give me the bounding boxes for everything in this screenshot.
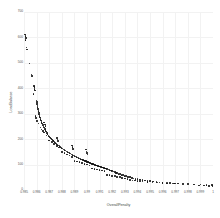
x-tick-label: 0.99 — [84, 191, 90, 194]
data-point — [101, 170, 103, 172]
data-point — [109, 174, 111, 176]
data-point — [182, 183, 184, 185]
gridline-horizontal — [24, 88, 213, 89]
data-point — [137, 180, 139, 182]
data-point — [193, 184, 195, 186]
data-point — [81, 162, 83, 164]
x-tick-label: 0.987 — [45, 191, 53, 194]
data-point — [85, 149, 87, 151]
y-axis-title-wrap: LoadBalance — [2, 12, 12, 190]
data-point — [198, 185, 200, 187]
data-point — [132, 180, 134, 182]
gridline-vertical — [188, 12, 189, 190]
data-point — [144, 180, 146, 182]
y-axis-title: LoadBalance — [9, 57, 13, 147]
data-point — [212, 185, 213, 187]
x-tick-label: 0.991 — [96, 191, 104, 194]
data-point — [76, 161, 78, 163]
x-tick-label: 0.992 — [108, 191, 116, 194]
data-point — [106, 174, 108, 176]
data-point — [66, 154, 68, 156]
data-point — [187, 183, 189, 185]
data-point — [36, 120, 38, 122]
x-tick-label: 0.996 — [159, 191, 167, 194]
gridline-vertical — [137, 12, 138, 190]
data-point — [45, 125, 47, 127]
data-point — [169, 182, 171, 184]
data-point — [71, 156, 73, 158]
data-point — [114, 175, 116, 177]
gridline-vertical — [163, 12, 164, 190]
data-point — [167, 182, 169, 184]
gridline-vertical — [175, 12, 176, 190]
data-point — [111, 175, 113, 177]
data-point — [124, 178, 126, 180]
gridline-vertical — [112, 12, 113, 190]
gridline-vertical — [100, 12, 101, 190]
data-point — [35, 117, 37, 119]
data-point — [203, 185, 205, 187]
data-point — [134, 180, 136, 182]
data-point — [147, 181, 149, 183]
data-point — [74, 160, 76, 162]
data-point — [139, 180, 141, 182]
x-tick-label: 0.997 — [171, 191, 179, 194]
gridline-vertical — [200, 12, 201, 190]
data-point — [159, 182, 161, 184]
data-point — [58, 147, 60, 149]
gridline-horizontal — [24, 165, 213, 166]
data-point — [96, 169, 98, 171]
plot-area — [24, 12, 213, 190]
data-point — [43, 132, 45, 134]
x-tick-label: 1 — [212, 191, 214, 194]
gridline-vertical — [125, 12, 126, 190]
data-point — [61, 151, 63, 153]
data-point — [69, 155, 71, 157]
data-point — [119, 176, 121, 178]
data-point — [31, 75, 33, 77]
x-tick-label: 0.989 — [71, 191, 79, 194]
data-point — [116, 176, 118, 178]
data-point — [208, 185, 210, 187]
data-point — [129, 179, 131, 181]
data-point — [25, 39, 27, 41]
gridline-vertical — [49, 12, 50, 190]
data-point — [91, 168, 93, 170]
gridline-horizontal — [24, 37, 213, 38]
gridline-vertical — [74, 12, 75, 190]
data-point — [56, 145, 58, 147]
data-point — [53, 143, 55, 145]
gridline-horizontal — [24, 63, 213, 64]
x-tick-label: 0.998 — [184, 191, 192, 194]
data-point — [94, 168, 96, 170]
data-point — [34, 90, 36, 92]
data-point — [72, 148, 74, 150]
data-point — [127, 178, 129, 180]
x-tick-label: 0.985 — [20, 191, 28, 194]
x-tick-label: 0.993 — [121, 191, 129, 194]
x-tick-label: 0.999 — [197, 191, 205, 194]
data-point — [206, 184, 208, 186]
data-point — [38, 123, 40, 125]
data-point — [51, 141, 53, 143]
data-point — [79, 161, 81, 163]
x-axis-title: OverallPenalty — [24, 203, 213, 207]
gridline-horizontal — [24, 114, 213, 115]
data-point — [26, 49, 28, 51]
data-point — [33, 93, 35, 95]
gridline-vertical — [62, 12, 63, 190]
gridline-vertical — [150, 12, 151, 190]
data-point — [64, 152, 66, 154]
data-point — [142, 181, 144, 183]
data-point — [121, 177, 123, 179]
data-point — [57, 140, 59, 142]
x-tick-label: 0.988 — [58, 191, 66, 194]
x-tick-label: 0.994 — [134, 191, 142, 194]
data-point — [149, 180, 151, 182]
scatter-chart-figure: 0100200300400500600700 0.9850.9860.9870.… — [0, 0, 220, 218]
x-axis-ticks: 0.9850.9860.9870.9880.9890.990.9910.9920… — [24, 191, 213, 199]
data-point — [87, 154, 89, 156]
x-tick-label: 0.986 — [33, 191, 41, 194]
data-point — [177, 183, 179, 185]
data-point — [104, 170, 106, 172]
